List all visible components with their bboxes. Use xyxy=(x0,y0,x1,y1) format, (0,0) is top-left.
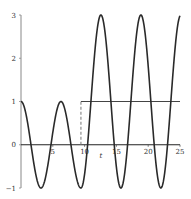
y-tick-label: 3 xyxy=(12,12,16,20)
y-tick-label: 1 xyxy=(12,98,16,106)
x-tick-label: 25 xyxy=(176,148,185,156)
plot-area xyxy=(21,15,180,188)
chart: −10123510152025t xyxy=(0,0,191,199)
y-tick-label: 2 xyxy=(12,55,16,63)
y-tick-label: 0 xyxy=(12,141,16,149)
x-axis-label: t xyxy=(100,152,103,160)
x-tick-label: 5 xyxy=(51,148,55,156)
y-tick-label: −1 xyxy=(6,185,16,193)
x-tick-label: 15 xyxy=(112,148,121,156)
x-tick-label: 20 xyxy=(144,148,153,156)
